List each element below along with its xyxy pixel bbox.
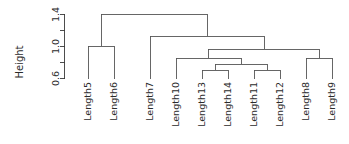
dendrogram-tree: [88, 14, 332, 79]
y-axis-tick-label-1: 1.4: [50, 7, 61, 22]
merge-link-m7: [150, 36, 264, 79]
y-axis-tick-label-2: 1.0: [50, 39, 61, 54]
leaf-labels: Length5 Length6 Length7 Length10 Length1…: [82, 82, 337, 127]
merge-link-root: [101, 14, 207, 46]
merge-link-m8: [88, 46, 114, 79]
dendrogram-svg: 1.4 1.0 0.6 Height: [0, 0, 349, 144]
leaf-label-length5: Length5: [82, 82, 93, 121]
merge-link-m2: [254, 70, 280, 79]
merge-link-m1: [202, 70, 228, 79]
merge-link-m5: [306, 58, 332, 79]
y-axis-title: Height: [14, 45, 25, 78]
leaf-label-length6: Length6: [108, 82, 119, 121]
leaf-label-length9: Length9: [326, 82, 337, 121]
leaf-label-length7: Length7: [144, 82, 155, 121]
leaf-label-length14: Length14: [222, 82, 233, 127]
merge-link-m3: [215, 64, 267, 70]
leaf-label-length8: Length8: [300, 82, 311, 121]
leaf-label-length11: Length11: [248, 82, 259, 127]
leaf-label-length12: Length12: [274, 82, 285, 127]
y-axis: 1.4 1.0 0.6 Height: [14, 7, 65, 86]
y-axis-tick-label-3: 0.6: [50, 71, 61, 86]
merge-link-m4: [176, 58, 241, 79]
leaf-label-length10: Length10: [170, 82, 181, 127]
leaf-label-length13: Length13: [196, 82, 207, 127]
merge-link-m6: [208, 49, 319, 58]
dendrogram-plot: 1.4 1.0 0.6 Height: [0, 0, 349, 144]
